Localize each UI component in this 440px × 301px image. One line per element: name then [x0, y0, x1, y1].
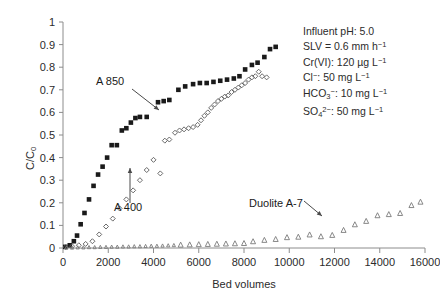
data-point-square [232, 76, 237, 81]
data-point-square [161, 99, 166, 104]
data-point-square [167, 98, 172, 103]
data-point-square [225, 77, 230, 82]
data-point-square [96, 172, 101, 177]
data-point-square [176, 88, 181, 93]
data-point-triangle [330, 232, 335, 237]
data-point-square [198, 81, 203, 86]
data-point-diamond [151, 157, 156, 162]
annotation-arrow-head [128, 168, 132, 173]
x-tick-label: 6000 [187, 256, 211, 268]
data-point-diamond [110, 216, 115, 221]
data-point-diamond [131, 188, 136, 193]
data-point-triangle [187, 242, 192, 247]
condition-cr-vi: Cr(VI): 120 µg L−1 [303, 54, 435, 70]
data-point-triangle [386, 212, 391, 217]
data-point-square [82, 211, 87, 216]
data-point-triangle [284, 235, 289, 240]
data-point-square [91, 184, 96, 189]
data-point-square [204, 81, 209, 86]
y-tick-label: 0.4 [40, 152, 55, 164]
data-point-square [115, 143, 120, 148]
data-point-diamond [158, 171, 163, 176]
condition-bicarbonate: HCO3−: 10 mg L−1 [303, 85, 435, 103]
data-point-diamond [260, 74, 265, 79]
x-tick-label: 14000 [364, 256, 395, 268]
chart-container: 00.10.20.30.40.50.60.70.80.91 0200040006… [0, 0, 440, 301]
data-point-diamond [90, 239, 95, 244]
x-tick-label: 0 [60, 256, 66, 268]
data-point-triangle [144, 244, 147, 247]
data-point-triangle [375, 213, 380, 218]
data-point-triangle [138, 245, 141, 248]
y-tick-label: 0.9 [40, 39, 55, 51]
data-point-triangle [352, 222, 357, 227]
data-point-diamond [97, 232, 102, 237]
data-point-diamond [205, 110, 210, 115]
data-point-square [243, 67, 248, 72]
data-point-square [78, 222, 83, 227]
y-tick-label: 0.5 [40, 129, 55, 141]
data-point-square [218, 78, 223, 83]
data-point-diamond [264, 75, 269, 80]
y-tick-label: 1 [49, 16, 55, 28]
data-point-square [109, 143, 114, 148]
data-point-triangle [161, 244, 164, 247]
data-point-diamond [199, 118, 204, 123]
y-tick-label: 0.7 [40, 84, 55, 96]
data-point-triangle [196, 242, 201, 247]
data-point-triangle [307, 232, 312, 237]
data-point-diamond [182, 127, 187, 132]
data-point-diamond [186, 126, 191, 131]
data-point-triangle [273, 236, 278, 241]
data-point-square [156, 100, 161, 105]
condition-slv: SLV = 0.6 mm h−1 [303, 38, 435, 54]
condition-influent-ph: Influent pH: 5.0 [303, 25, 435, 38]
x-tick-label: 8000 [232, 256, 256, 268]
data-point-triangle [178, 242, 183, 247]
data-point-square [87, 197, 92, 202]
data-point-triangle [296, 234, 301, 239]
y-tick-label: 0 [49, 242, 55, 254]
data-point-triangle [318, 234, 323, 239]
data-point-triangle [418, 199, 423, 204]
annotation-label-a850: A 850 [96, 75, 124, 87]
data-point-triangle [232, 241, 237, 246]
data-point-triangle [341, 227, 346, 232]
data-point-square [262, 55, 267, 60]
data-point-diamond [167, 137, 172, 142]
data-point-diamond [144, 168, 149, 173]
data-point-square [144, 115, 149, 120]
data-point-diamond [256, 69, 261, 74]
y-axis-title: C/C0 [24, 147, 38, 170]
data-point-diamond [209, 105, 214, 110]
data-point-diamond [195, 122, 200, 127]
data-point-square [268, 47, 273, 52]
data-point-triangle [205, 241, 210, 246]
data-point-diamond [191, 125, 196, 130]
y-axis-title-wrap: C/C0 [8, 118, 28, 178]
data-point-square [75, 233, 80, 238]
condition-chloride: Cl−: 50 mg L−1 [303, 69, 435, 85]
data-point-square [191, 82, 196, 87]
y-tick-label: 0.3 [40, 174, 55, 186]
x-tick-label: 4000 [141, 256, 165, 268]
x-tick-label: 10000 [274, 256, 305, 268]
data-point-square [273, 45, 278, 50]
data-point-square [211, 80, 216, 85]
data-point-diamond [103, 224, 108, 229]
data-point-square [72, 239, 77, 244]
data-point-triangle [262, 237, 267, 242]
annotation-label-duolite: Duolite A-7 [249, 197, 303, 209]
data-point-square [129, 120, 134, 125]
data-point-triangle [398, 210, 403, 215]
x-tick-label: 2000 [96, 256, 120, 268]
data-point-diamond [137, 178, 142, 183]
data-point-square [255, 60, 260, 65]
data-point-triangle [150, 244, 153, 247]
x-tick-label: 12000 [319, 256, 350, 268]
data-point-triangle [364, 218, 369, 223]
data-point-square [105, 155, 110, 160]
y-tick-labels: 00.10.20.30.40.50.60.70.80.91 [40, 16, 55, 254]
data-point-diamond [83, 241, 88, 246]
x-tick-label: 16000 [410, 256, 440, 268]
